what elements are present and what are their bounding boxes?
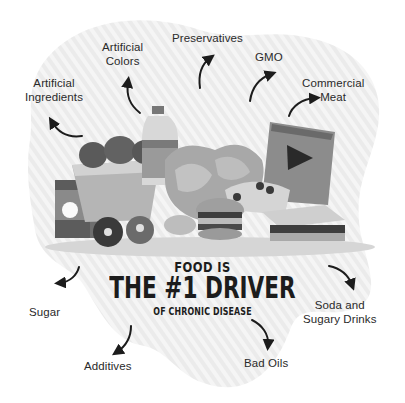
label-commercial-meat: Commercial Meat xyxy=(302,76,364,104)
background-blob xyxy=(0,0,405,403)
label-preservatives: Preservatives xyxy=(172,31,243,45)
infographic: Artificial Ingredients Artificial Colors… xyxy=(0,0,405,403)
label-artificial-colors: Artificial Colors xyxy=(102,40,143,68)
label-artificial-ingredients: Artificial Ingredients xyxy=(25,76,83,104)
headline-line2: THE #1 DRIVER xyxy=(57,271,349,305)
label-gmo: GMO xyxy=(255,50,283,64)
headline-line3: OF CHRONIC DISEASE xyxy=(51,305,355,317)
label-additives: Additives xyxy=(84,359,132,373)
label-bad-oils: Bad Oils xyxy=(244,356,288,370)
